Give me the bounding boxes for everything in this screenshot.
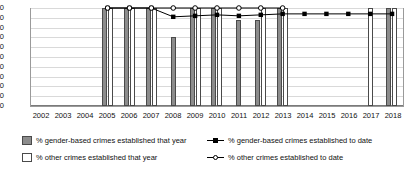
y-axis-tick-label: 60 xyxy=(0,43,4,51)
line-marker-hollow-circle xyxy=(237,6,242,11)
line-marker-hollow-circle xyxy=(171,6,176,11)
y-axis-tick-label: 30 xyxy=(0,73,4,81)
x-axis: 2002200320042005200620072008200920102011… xyxy=(30,110,404,122)
x-axis-tick-label: 2011 xyxy=(228,110,250,122)
line-marker-filled-square xyxy=(237,14,241,18)
line-marker-hollow-circle xyxy=(258,6,263,11)
line-marker-hollow-circle xyxy=(127,6,132,11)
y-axis-tick-label: 20 xyxy=(0,82,4,90)
y-axis-tick-label: 70 xyxy=(0,33,4,41)
legend-label: % gender-based crimes established that y… xyxy=(36,136,187,145)
legend-item-gender-line: % gender-based crimes established to dat… xyxy=(207,136,372,145)
x-axis-tick-label: 2015 xyxy=(316,110,338,122)
legend-item-other-bar: % other crimes established that year xyxy=(22,153,157,162)
line-marker-filled-square xyxy=(346,12,350,16)
legend-swatch-gender-icon xyxy=(22,136,32,145)
x-axis-tick-label: 2008 xyxy=(162,110,184,122)
y-axis-tick-label: 10 xyxy=(0,92,4,100)
y-axis-tick-label: 90 xyxy=(0,14,4,22)
line-marker-filled-square xyxy=(215,13,219,17)
x-axis-tick-label: 2002 xyxy=(30,110,52,122)
line-marker-filled-square xyxy=(324,12,328,16)
x-axis-tick-label: 2010 xyxy=(206,110,228,122)
combo-bar-line-chart: 1009080706050403020100 20022003200420052… xyxy=(0,0,410,174)
lines-layer xyxy=(31,8,403,106)
legend-item-gender-bar: % gender-based crimes established that y… xyxy=(22,136,187,145)
x-axis-tick-label: 2004 xyxy=(74,110,96,122)
x-axis-tick-label: 2014 xyxy=(294,110,316,122)
line-marker-hollow-circle xyxy=(193,6,198,11)
x-axis-tick-label: 2003 xyxy=(52,110,74,122)
line-marker-filled-square xyxy=(368,12,372,16)
legend-label: % other crimes established that year xyxy=(36,153,157,162)
x-axis-tick-label: 2006 xyxy=(118,110,140,122)
legend-label: % gender-based crimes established to dat… xyxy=(228,136,372,145)
legend-line-other-icon xyxy=(207,153,224,162)
x-axis-tick-label: 2016 xyxy=(338,110,360,122)
line-marker-hollow-circle xyxy=(215,6,220,11)
y-axis-tick-label: 0 xyxy=(0,102,4,110)
x-axis-tick-label: 2017 xyxy=(360,110,382,122)
line-marker-filled-square xyxy=(171,15,175,19)
line-marker-filled-square xyxy=(302,12,306,16)
x-axis-tick-label: 2009 xyxy=(184,110,206,122)
y-axis-tick-label: 100 xyxy=(0,4,4,12)
legend-swatch-other-icon xyxy=(22,153,32,162)
legend-label: % other crimes established to date xyxy=(228,153,343,162)
line-marker-filled-square xyxy=(193,14,197,18)
line-marker-hollow-circle xyxy=(149,6,154,11)
y-axis-tick-label: 40 xyxy=(0,63,4,71)
line-marker-hollow-circle xyxy=(280,6,285,11)
x-axis-tick-label: 2012 xyxy=(250,110,272,122)
line-marker-hollow-circle xyxy=(105,6,110,11)
chart-legend: % gender-based crimes established that y… xyxy=(22,136,410,170)
x-axis-tick-label: 2018 xyxy=(382,110,404,122)
x-axis-tick-label: 2013 xyxy=(272,110,294,122)
line-marker-filled-square xyxy=(259,13,263,17)
y-axis-tick-label: 50 xyxy=(0,53,4,61)
y-axis-tick-label: 80 xyxy=(0,24,4,32)
line-marker-filled-square xyxy=(390,12,394,16)
x-axis-tick-label: 2005 xyxy=(96,110,118,122)
legend-item-other-line: % other crimes established to date xyxy=(207,153,343,162)
x-axis-tick-label: 2007 xyxy=(140,110,162,122)
legend-line-gender-icon xyxy=(207,136,224,145)
line-marker-filled-square xyxy=(280,12,284,16)
